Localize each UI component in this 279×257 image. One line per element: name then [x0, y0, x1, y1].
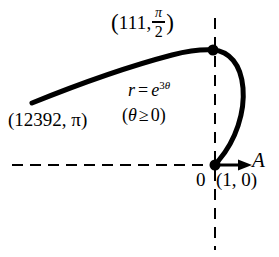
equation-base-e: e — [151, 80, 159, 100]
condition-value: 0 — [151, 105, 160, 125]
condition-close-paren: ) — [160, 105, 166, 125]
label-point-1-0: (1, 0) — [216, 170, 257, 189]
fraction-numerator: π — [153, 6, 164, 21]
label-top-close-paren: ) — [166, 11, 174, 34]
equation-exponent-theta: θ — [165, 79, 170, 91]
label-axis-a: A — [252, 150, 265, 171]
fraction-pi-over-2: π 2 — [152, 6, 165, 40]
condition-theta: θ — [128, 105, 137, 125]
label-point-111-pi-over-2: ( 111 , π 2 ) — [111, 6, 174, 40]
point-marker-111-pi-over-2 — [208, 45, 219, 56]
label-top-open-paren: ( — [111, 11, 119, 34]
equation-variable-r: r — [128, 80, 135, 100]
equation-equals-sign: = — [138, 80, 148, 100]
label-top-radius: 111 — [119, 13, 147, 32]
equation-domain-condition: (θ≥0) — [122, 106, 166, 124]
label-top-comma: , — [146, 13, 151, 32]
condition-relation-sign: ≥ — [139, 105, 149, 125]
equation-polar: r=e3θ — [128, 80, 170, 99]
label-origin: 0 — [196, 170, 206, 189]
label-point-12392-pi: (12392, π) — [8, 110, 87, 129]
fraction-denominator: 2 — [153, 23, 165, 40]
polar-curve-figure: ( 111 , π 2 ) (12392, π) r=e3θ (θ≥0) 0 (… — [0, 0, 279, 257]
equation-exponent: 3θ — [159, 79, 170, 91]
